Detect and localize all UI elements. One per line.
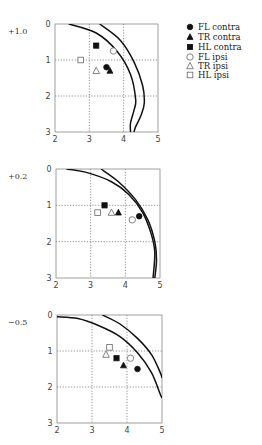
x-tick-label: 5 [157, 281, 162, 290]
x-tick-label: 2 [53, 281, 58, 290]
circle-filled-icon [187, 24, 193, 30]
x-tick-label: 5 [155, 135, 160, 144]
data-point-tr-contra [121, 362, 127, 368]
data-point-tr-contra [115, 209, 121, 215]
data-point-hl-ipsi [95, 210, 101, 216]
x-tick-label: 4 [124, 426, 129, 435]
panel-3: 23450123−0.5 [8, 311, 165, 435]
data-point-fl-contra [136, 213, 142, 219]
y-tick-label: 3 [46, 274, 51, 283]
x-tick-label: 5 [159, 426, 164, 435]
x-tick-label: 4 [123, 281, 128, 290]
data-point-fl-ipsi [127, 355, 133, 361]
x-tick-label: 3 [88, 281, 93, 290]
square-filled-icon [187, 44, 192, 49]
data-point-hl-ipsi [107, 345, 113, 351]
y-tick-label: 0 [45, 20, 50, 29]
y-tick-label: 0 [46, 165, 51, 174]
x-tick-label: 2 [54, 426, 59, 435]
y-tick-label: 2 [47, 383, 52, 392]
triangle-open-icon [187, 62, 194, 68]
data-point-fl-contra [104, 64, 110, 70]
data-point-tr-ipsi [103, 351, 110, 357]
y-tick-label: 1 [46, 201, 51, 210]
x-tick-label: 4 [121, 135, 126, 144]
data-point-tr-ipsi [108, 209, 115, 215]
data-point-hl-contra [94, 43, 99, 48]
x-tick-label: 2 [52, 135, 57, 144]
legend-label: FL contra [198, 22, 240, 32]
plot-frame [56, 169, 160, 278]
y-tick-label: 3 [45, 128, 50, 137]
y-tick-label: 1 [47, 347, 52, 356]
chart-figure: 23450123+1.023450123+0.223450123−0.5FL c… [0, 0, 262, 445]
y-tick-label: 3 [47, 419, 52, 428]
data-point-fl-contra [135, 366, 141, 372]
data-point-hl-ipsi [78, 57, 84, 63]
x-tick-label: 3 [87, 135, 92, 144]
data-point-hl-contra [102, 203, 107, 208]
data-point-tr-ipsi [93, 67, 100, 73]
y-tick-label: 0 [47, 311, 52, 320]
y-tick-label: 2 [46, 238, 51, 247]
legend-label: HL contra [198, 42, 242, 52]
triangle-filled-icon [187, 34, 193, 40]
boundary-curve [69, 24, 136, 132]
data-point-hl-contra [114, 356, 119, 361]
x-tick-label: 3 [89, 426, 94, 435]
row-label: +1.0 [8, 27, 27, 36]
row-label: −0.5 [8, 318, 27, 327]
row-label: +0.2 [8, 172, 27, 181]
square-open-icon [187, 72, 193, 78]
panel-1: 23450123+1.0 [8, 20, 161, 144]
legend-label: TR contra [198, 32, 241, 42]
y-tick-label: 1 [45, 56, 50, 65]
data-point-fl-ipsi [110, 48, 116, 54]
boundary-curve [66, 169, 154, 278]
data-point-fl-ipsi [129, 217, 135, 223]
circle-open-icon [187, 54, 193, 60]
legend: FL contraTR contraHL contraFL ipsiTR ips… [187, 22, 242, 80]
y-tick-label: 2 [45, 92, 50, 101]
legend-label: HL ipsi [198, 70, 229, 80]
panel-2: 23450123+0.2 [8, 165, 163, 290]
